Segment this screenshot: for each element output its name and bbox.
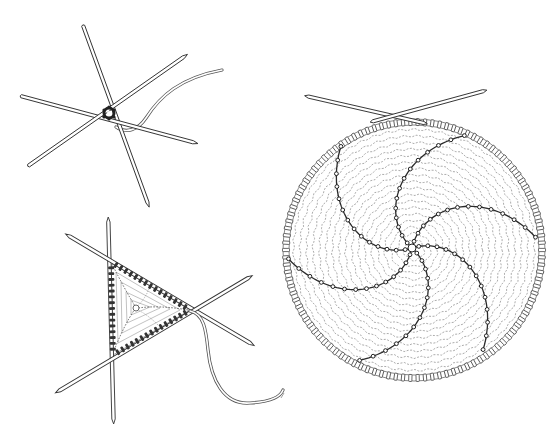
increase-stitch: [397, 225, 401, 229]
yarn-tail-highlight: [190, 311, 283, 403]
stitch: [108, 272, 114, 275]
increase-stitch: [404, 261, 408, 265]
increase-stitch: [426, 150, 430, 154]
edge-stitch: [401, 374, 405, 381]
increase-stitch: [501, 212, 505, 216]
increase-stitch: [375, 284, 379, 288]
increase-stitch: [365, 287, 369, 291]
increase-stitch: [484, 334, 488, 338]
circular-swirl-figure: [283, 89, 546, 382]
increase-stitch: [437, 144, 441, 148]
increase-stitch: [422, 224, 426, 228]
edge-stitch: [538, 256, 545, 260]
knitting-illustration: [0, 0, 560, 442]
edge-stitch: [536, 226, 543, 230]
increase-stitch: [384, 349, 388, 353]
increase-stitch: [404, 334, 408, 338]
increase-stitch: [403, 248, 407, 252]
edge-stitch: [430, 120, 434, 127]
increase-stitch: [394, 216, 398, 220]
increase-stitch: [399, 268, 403, 272]
edge-stitch: [283, 248, 290, 251]
increase-stitch: [398, 186, 402, 190]
increase-stitch: [368, 240, 372, 244]
increase-stitch: [384, 280, 388, 284]
stitch: [109, 295, 115, 298]
increase-stitch: [331, 285, 335, 289]
edge-stitch: [416, 374, 419, 381]
increase-stitch: [359, 234, 363, 238]
yarn-tail-highlight: [116, 70, 222, 130]
stitch: [110, 348, 116, 351]
increase-stitch: [394, 248, 398, 252]
increase-stitch: [395, 196, 399, 200]
increase-stitch: [435, 245, 439, 249]
increase-stitch: [335, 172, 339, 176]
increase-stitch: [486, 320, 490, 324]
increase-stitch: [423, 306, 427, 310]
edge-stitch: [430, 373, 434, 380]
increase-stitch: [343, 287, 347, 291]
increase-stitch: [449, 138, 453, 142]
increase-stitch: [402, 177, 406, 181]
increase-stitch: [287, 257, 291, 261]
stitch: [109, 307, 115, 310]
increase-stitch: [335, 185, 339, 189]
increase-stitch: [426, 276, 430, 280]
stitch: [109, 330, 115, 333]
edge-stitch: [394, 373, 398, 380]
increase-stitch: [478, 205, 482, 209]
increase-stitch: [319, 281, 323, 285]
increase-stitch: [426, 286, 430, 290]
increase-stitch: [474, 274, 478, 278]
increase-stitch: [468, 265, 472, 269]
increase-stitch: [483, 295, 487, 299]
edge-stitch: [283, 241, 290, 245]
increase-stitch: [436, 212, 440, 216]
stitch: [110, 342, 116, 345]
increase-stitch: [481, 348, 485, 352]
increase-stitch: [385, 247, 389, 251]
increase-stitch: [408, 253, 412, 257]
increase-stitch: [371, 354, 375, 358]
increase-stitch: [354, 288, 358, 292]
increase-stitch: [416, 158, 420, 162]
increase-stitch: [297, 267, 301, 271]
increase-stitch: [412, 325, 416, 329]
needle-right: [370, 89, 488, 124]
increase-stitch: [463, 134, 467, 138]
stitch: [109, 290, 115, 293]
increase-stitch: [392, 275, 396, 279]
stitch: [109, 313, 115, 316]
stitch: [108, 278, 114, 281]
increase-stitch: [444, 248, 448, 252]
increase-stitch: [337, 197, 341, 201]
increase-stitch: [415, 251, 419, 255]
stitch: [109, 319, 115, 322]
increase-stitch: [466, 205, 470, 209]
triangle-figure: [55, 217, 283, 424]
stitch: [108, 266, 114, 269]
increase-stitch: [341, 208, 345, 212]
edge-stitch: [284, 270, 291, 274]
increase-stitch: [336, 158, 340, 162]
increase-stitch: [461, 258, 465, 262]
stitch: [109, 301, 115, 304]
edge-stitch: [284, 226, 291, 230]
increase-stitch: [376, 245, 380, 249]
yarn-tail: [116, 70, 222, 130]
increase-stitch: [412, 239, 416, 243]
increase-stitch: [400, 234, 404, 238]
increase-stitch: [420, 259, 424, 263]
edge-stitch: [423, 374, 427, 381]
increase-stitch: [523, 226, 527, 230]
increase-stitch: [405, 241, 409, 245]
stitch: [109, 324, 115, 327]
edge-stitch: [538, 263, 545, 267]
increase-stitch: [428, 217, 432, 221]
stitch: [110, 336, 116, 339]
center-ring: [408, 244, 416, 252]
increase-stitch: [417, 245, 421, 249]
increase-stitch: [453, 252, 457, 256]
increase-stitch: [426, 244, 430, 248]
